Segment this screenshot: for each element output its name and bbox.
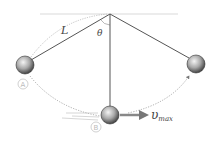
- bob-position-a: [16, 56, 34, 74]
- swing-path-right: [128, 76, 189, 113]
- velocity-symbol: υ: [151, 108, 158, 122]
- point-b-label: B: [94, 124, 99, 132]
- angle-label: θ: [97, 28, 103, 38]
- motion-line: [72, 116, 99, 117]
- angle-arc: [100, 19, 110, 25]
- motion-line: [62, 118, 98, 120]
- velocity-label: υmax: [151, 108, 173, 123]
- string-right: [110, 14, 189, 58]
- length-label: L: [60, 24, 68, 37]
- point-a-label: A: [21, 81, 26, 89]
- bob-position-b: [101, 106, 119, 124]
- pendulum-diagram: L θ υmax A B: [0, 0, 219, 144]
- bob-position-right: [187, 55, 205, 73]
- swing-path-left: [30, 76, 100, 116]
- velocity-subscript: max: [158, 115, 173, 123]
